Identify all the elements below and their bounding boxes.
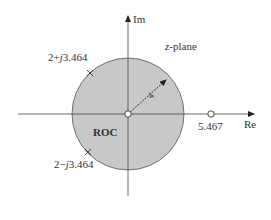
real-axis-label: Re — [244, 118, 256, 130]
pole-lower-re: 2− — [54, 158, 66, 170]
z-plane-diagram: 4 Im Re z-plane 2+j3.464 2−j3.464 ROC 5.… — [0, 0, 271, 220]
zero-5467-marker — [208, 111, 214, 117]
pole-upper-label: 2+j3.464 — [48, 51, 88, 63]
pole-upper-im: 3.464 — [63, 51, 88, 63]
pole-upper-re: 2+ — [48, 51, 60, 63]
plane-title: z-plane — [164, 40, 197, 52]
pole-lower-im: 3.464 — [69, 158, 94, 170]
plane-title-suffix: -plane — [169, 40, 197, 52]
roc-label: ROC — [93, 126, 118, 138]
imag-axis-label: Im — [133, 13, 146, 25]
zero-5467-label: 5.467 — [198, 120, 223, 132]
pole-lower-label: 2−j3.464 — [54, 158, 94, 170]
zero-origin-marker — [125, 111, 131, 117]
